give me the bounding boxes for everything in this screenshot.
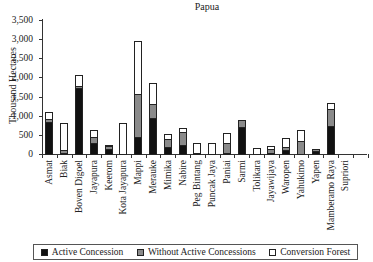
x-tick-label: Tolikara <box>252 160 262 192</box>
bar-segment-conversion <box>90 130 98 138</box>
x-tick-label: Yapen <box>311 160 321 184</box>
x-tick-label: Asmat <box>44 160 54 185</box>
bar-segment-conversion <box>327 103 335 110</box>
bar-segment-without <box>90 137 98 144</box>
bar-segment-active <box>149 118 157 155</box>
bar-segment-conversion <box>149 83 157 105</box>
y-tick-mark <box>39 39 42 40</box>
chart-title: Papua <box>0 1 373 12</box>
x-tick-mark <box>72 154 73 158</box>
x-tick-label: Peg Bintang <box>192 160 202 207</box>
x-tick-label: Jayawijaya <box>266 160 276 202</box>
bar-segment-conversion <box>164 134 172 140</box>
bar-segment-without <box>134 94 142 138</box>
bar-segment-conversion <box>45 112 53 120</box>
x-tick-label: Merauke <box>148 160 158 194</box>
legend-swatch-gray <box>137 249 144 256</box>
x-tick-mark <box>220 154 221 158</box>
bar-segment-conversion <box>223 133 231 144</box>
x-tick-label: Mamberamo Raya <box>326 160 336 230</box>
x-tick-label: Waropen <box>281 160 291 194</box>
x-tick-mark <box>308 154 309 158</box>
x-tick-mark <box>131 154 132 158</box>
legend: Active Concession Without Active Concess… <box>33 244 358 260</box>
x-tick-label: Nabire <box>178 160 188 186</box>
x-tick-mark <box>279 154 280 158</box>
bar-segment-without <box>312 149 320 151</box>
x-tick-mark <box>175 154 176 158</box>
bar-segment-conversion <box>75 75 83 87</box>
bar-segment-conversion <box>105 145 113 147</box>
bar-segment-conversion <box>253 148 261 155</box>
x-tick-label: Paniai <box>222 160 232 184</box>
x-tick-mark <box>323 154 324 158</box>
legend-item-without-active-concessions: Without Active Concessions <box>137 247 256 257</box>
y-tick-mark <box>39 58 42 59</box>
bar-segment-active <box>90 143 98 155</box>
bar-segment-active <box>45 122 53 155</box>
y-tick-mark <box>39 77 42 78</box>
bar-segment-without <box>164 139 172 148</box>
bar-segment-without <box>238 120 246 128</box>
bar-segment-active <box>164 147 172 155</box>
bar-segment-conversion <box>119 123 127 155</box>
x-tick-mark <box>57 154 58 158</box>
bar-segment-without <box>149 104 157 119</box>
bar-segment-active <box>238 127 246 155</box>
x-tick-mark <box>205 154 206 158</box>
x-tick-mark <box>294 154 295 158</box>
bar-segment-active <box>179 145 187 155</box>
x-tick-label: Mimika <box>163 160 173 190</box>
x-tick-mark <box>353 154 354 158</box>
legend-item-conversion-forest: Conversion Forest <box>269 247 350 257</box>
x-tick-mark <box>42 154 43 158</box>
x-tick-mark <box>146 154 147 158</box>
bar-segment-conversion <box>179 128 187 133</box>
y-tick-label: 3,000 <box>3 34 33 44</box>
x-tick-mark <box>101 154 102 158</box>
x-tick-label: Biak <box>59 160 69 178</box>
bar-segment-without <box>327 109 335 128</box>
legend-label: Active Concession <box>52 247 124 257</box>
bar-segment-without <box>297 141 305 155</box>
bar-segment-conversion <box>267 146 275 151</box>
bar-segment-conversion <box>193 143 201 154</box>
x-tick-label: Supriori <box>340 160 350 191</box>
bar-segment-active <box>327 126 335 155</box>
legend-label: Without Active Concessions <box>148 247 256 257</box>
y-tick-label: 2,000 <box>3 72 33 82</box>
x-tick-mark <box>190 154 191 158</box>
x-tick-mark <box>368 154 369 158</box>
bar-segment-conversion <box>134 41 142 95</box>
bar-segment-active <box>134 137 142 155</box>
x-tick-label: Puncak Jaya <box>207 160 217 207</box>
bar-segment-without <box>223 143 231 154</box>
bar-segment-conversion <box>60 123 68 152</box>
y-tick-label: 0 <box>3 149 33 159</box>
y-tick-label: 3,500 <box>3 15 33 25</box>
x-tick-mark <box>86 154 87 158</box>
x-tick-label: Mappi <box>133 160 143 185</box>
legend-item-active-concession: Active Concession <box>41 247 124 257</box>
y-tick-label: 1,000 <box>3 111 33 121</box>
y-tick-mark <box>39 135 42 136</box>
x-tick-mark <box>160 154 161 158</box>
y-tick-label: 1,500 <box>3 92 33 102</box>
x-tick-label: Boven Digoel <box>74 160 84 213</box>
x-tick-label: Jayapura <box>89 160 99 194</box>
legend-label: Conversion Forest <box>280 247 350 257</box>
y-tick-mark <box>39 97 42 98</box>
x-tick-mark <box>116 154 117 158</box>
legend-swatch-black <box>41 249 48 256</box>
y-axis <box>42 19 43 155</box>
y-tick-mark <box>39 20 42 21</box>
x-tick-label: Kota Jayapura <box>118 160 128 215</box>
x-tick-label: Keerom <box>104 160 114 191</box>
y-tick-mark <box>39 116 42 117</box>
x-tick-mark <box>338 154 339 158</box>
x-tick-mark <box>234 154 235 158</box>
x-tick-label: Sarmi <box>237 160 247 183</box>
bar-segment-conversion <box>297 130 305 142</box>
bar-segment-active <box>75 88 83 155</box>
bar-segment-without <box>179 132 187 146</box>
